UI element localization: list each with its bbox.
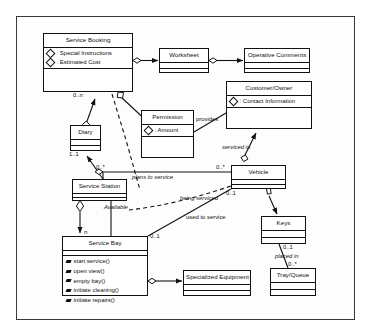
operation-row: start service() xyxy=(66,257,145,267)
label-mult-tray: 0..* xyxy=(288,262,297,268)
class-name-keys: Keys xyxy=(262,217,305,231)
class-service-bay[interactable]: Service Bay start service() open view() … xyxy=(62,236,148,296)
class-name-service-bay: Service Bay xyxy=(63,237,147,251)
class-name-specialized-equipment: Specialized Equipment xyxy=(184,271,250,285)
attributes-permission: : Amount xyxy=(142,125,193,137)
attribute-row: : Special Instructions xyxy=(47,49,130,58)
class-name-service-booking: Service Booking xyxy=(44,34,132,48)
class-name-worksheet: Worksheet xyxy=(160,49,208,63)
attribute-label: : Contact Information xyxy=(240,97,296,106)
assoc-bay-equipment xyxy=(148,278,182,283)
attribute-label: : Special Instructions xyxy=(57,49,112,58)
attributes-keys xyxy=(262,231,305,238)
operation-label: initiate cleaning() xyxy=(74,286,119,296)
label-mult-bay-01: 0..1 xyxy=(150,234,160,240)
operations-tray-queue xyxy=(271,290,315,297)
label-plans-to-service: plans to service xyxy=(132,175,173,181)
attribute-row: : Amount xyxy=(145,126,191,135)
assoc-booking-worksheet xyxy=(133,58,158,63)
attribute-row: : Contact Information xyxy=(230,97,309,106)
operation-label: open view() xyxy=(74,267,105,277)
operations-customer-owner xyxy=(227,108,311,118)
diamond-bullet-icon xyxy=(46,58,56,68)
operation-row: open view() xyxy=(66,267,145,277)
operations-specialized-equipment xyxy=(184,291,250,298)
operation-marker-icon xyxy=(66,260,72,265)
class-name-service-station: Service Station xyxy=(73,180,126,194)
class-vehicle[interactable]: Vehicle xyxy=(231,165,286,189)
attributes-tray-queue xyxy=(271,283,315,290)
operation-marker-icon xyxy=(66,299,72,304)
operation-row: initiate cleaning() xyxy=(66,286,145,296)
label-being-serviced: being serviced xyxy=(180,196,218,202)
label-mult-diary-one: 1..1 xyxy=(69,152,79,158)
operations-permission xyxy=(142,137,193,147)
assoc-diary-booking xyxy=(82,99,95,128)
label-serviced-in: serviced in xyxy=(222,145,250,151)
label-used-to-service: used to service xyxy=(186,215,226,221)
label-placed-in: placed in xyxy=(275,254,299,260)
class-name-customer-owner: Customer/Owner xyxy=(227,82,311,96)
diagram-root: Service Booking : Special Instructions :… xyxy=(0,0,369,335)
assoc-worksheet-comments xyxy=(209,58,243,63)
label-available: Available xyxy=(104,205,128,211)
class-operative-comments[interactable]: Operative Comments xyxy=(244,48,310,73)
attribute-label: : Estimated Cost xyxy=(57,58,101,67)
label-mult-booking-diary: 0..n xyxy=(73,93,83,99)
operation-row: initiate repairs() xyxy=(66,296,145,306)
class-name-vehicle: Vehicle xyxy=(232,166,285,180)
label-provides: provides xyxy=(196,117,218,123)
operations-service-booking xyxy=(44,69,132,79)
class-customer-owner[interactable]: Customer/Owner : Contact Information xyxy=(226,81,312,129)
label-mult-vehicle-top: 0..* xyxy=(216,165,225,171)
operation-marker-icon xyxy=(66,269,72,274)
operations-service-bay: start service() open view() empty bay() … xyxy=(63,256,147,308)
label-mult-station: 0..* xyxy=(96,165,105,171)
operation-label: empty bay() xyxy=(74,277,106,287)
operations-service-station xyxy=(73,198,126,203)
attribute-row: : Estimated Cost xyxy=(47,58,130,67)
label-mult-vehicle-bottom: 0..1 xyxy=(226,191,236,197)
class-tray-queue[interactable]: Tray/Queue xyxy=(270,268,316,296)
operations-vehicle xyxy=(232,185,285,190)
class-name-permission: Permission xyxy=(142,111,193,125)
class-permission[interactable]: Permission : Amount xyxy=(141,110,194,158)
class-service-booking[interactable]: Service Booking : Special Instructions :… xyxy=(43,33,133,92)
operation-row: empty bay() xyxy=(66,277,145,287)
class-name-operative-comments: Operative Comments xyxy=(245,49,309,63)
class-keys[interactable]: Keys xyxy=(261,216,306,244)
assoc-station-bay xyxy=(76,201,83,234)
label-mult-bay-n: n xyxy=(84,230,87,236)
assoc-vehicle-keys xyxy=(267,188,278,214)
class-service-station[interactable]: Service Station xyxy=(72,179,127,201)
attributes-customer-owner: : Contact Information xyxy=(227,96,311,108)
operation-label: start service() xyxy=(74,257,110,267)
attribute-label: : Amount xyxy=(155,126,179,135)
operation-marker-icon xyxy=(66,279,72,284)
operation-label: initiate repairs() xyxy=(74,296,115,306)
operations-worksheet xyxy=(160,69,208,75)
attributes-service-booking: : Special Instructions : Estimated Cost xyxy=(44,48,132,70)
class-diary[interactable]: Diary xyxy=(70,125,101,151)
diamond-bullet-icon xyxy=(144,125,154,135)
class-specialized-equipment[interactable]: Specialized Equipment xyxy=(183,270,251,296)
operation-marker-icon xyxy=(66,289,72,294)
class-name-diary: Diary xyxy=(71,126,100,140)
label-mult-keys: 0..1 xyxy=(283,245,293,251)
diamond-bullet-icon xyxy=(229,96,239,106)
class-name-tray-queue: Tray/Queue xyxy=(271,269,315,283)
class-worksheet[interactable]: Worksheet xyxy=(159,48,209,73)
operations-operative-comments xyxy=(245,69,309,75)
